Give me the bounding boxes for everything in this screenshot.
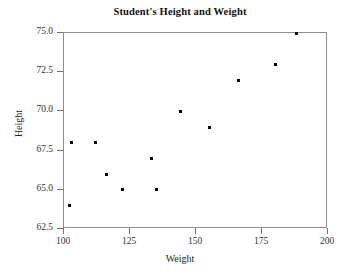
data-point	[179, 110, 182, 113]
data-point	[237, 79, 240, 82]
x-axis-tick	[63, 228, 64, 234]
y-axis-tick-label: 72.5	[5, 65, 53, 75]
y-axis-tick-label: 70.0	[5, 104, 53, 114]
data-point	[150, 157, 153, 160]
x-axis-tick	[261, 228, 262, 234]
x-axis-tick	[327, 228, 328, 234]
x-axis-tick-label: 125	[109, 236, 149, 246]
y-axis-tick-label: 62.5	[5, 222, 53, 232]
x-axis-tick	[129, 228, 130, 234]
data-point	[121, 188, 124, 191]
data-point	[105, 173, 108, 176]
data-point	[155, 188, 158, 191]
data-point	[208, 126, 211, 129]
x-axis-tick-label: 150	[175, 236, 215, 246]
plot-area	[63, 32, 327, 228]
y-axis-tick-label: 65.0	[5, 183, 53, 193]
x-axis-tick-label: 200	[307, 236, 347, 246]
x-axis-tick-label: 175	[241, 236, 281, 246]
x-axis-label: Weight	[0, 253, 360, 264]
x-axis-tick-label: 100	[43, 236, 83, 246]
x-axis-tick	[195, 228, 196, 234]
chart-title: Student's Height and Weight	[0, 6, 360, 17]
data-point	[94, 141, 97, 144]
data-point	[70, 141, 73, 144]
data-point	[274, 63, 277, 66]
data-point	[68, 204, 71, 207]
scatter-chart-figure: Student's Height and Weight Height Weigh…	[0, 0, 360, 279]
y-axis-tick-label: 75.0	[5, 26, 53, 36]
y-axis-tick-label: 67.5	[5, 144, 53, 154]
data-point	[295, 32, 298, 35]
